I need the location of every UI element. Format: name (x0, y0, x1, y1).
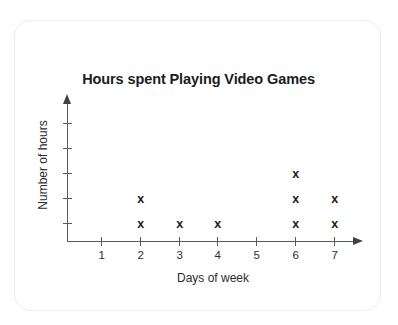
x-axis-tick-label: 2 (129, 249, 153, 261)
y-axis-tick (63, 173, 72, 174)
y-axis-tick (63, 123, 72, 124)
x-axis-arrow-icon (353, 237, 363, 245)
y-axis-tick (63, 223, 72, 224)
data-point-mark: x (171, 218, 189, 231)
x-axis-tick-label: 4 (206, 249, 230, 261)
x-axis-tick-label: 6 (284, 249, 308, 261)
data-point-mark: x (132, 193, 150, 206)
data-point-mark: x (209, 218, 227, 231)
plot-area: 1 2 3 4 5 6 7 x x x x x x x x x Number o… (15, 21, 382, 312)
x-axis-tick (295, 237, 296, 246)
data-point-mark: x (287, 168, 305, 181)
x-axis-tick (334, 237, 335, 246)
data-point-mark: x (326, 193, 344, 206)
x-axis-tick (101, 237, 102, 246)
y-axis-tick (63, 148, 72, 149)
y-axis-label: Number of hours (36, 100, 50, 230)
x-axis-label: Days of week (67, 271, 359, 285)
data-point-mark: x (326, 218, 344, 231)
x-axis-tick (256, 237, 257, 246)
data-point-mark: x (132, 218, 150, 231)
chart-card: Hours spent Playing Video Games 1 2 (14, 20, 381, 311)
y-axis-tick (63, 198, 72, 199)
x-axis-line (67, 241, 359, 242)
data-point-mark: x (287, 193, 305, 206)
y-axis-arrow-icon (63, 94, 71, 104)
x-axis-tick-label: 1 (90, 249, 114, 261)
x-axis-tick-label: 5 (245, 249, 269, 261)
x-axis-tick (179, 237, 180, 246)
data-point-mark: x (287, 218, 305, 231)
chart-screenshot: Hours spent Playing Video Games 1 2 (0, 0, 398, 325)
x-axis-tick (140, 237, 141, 246)
x-axis-tick (217, 237, 218, 246)
x-axis-tick-label: 7 (323, 249, 347, 261)
x-axis-tick-label: 3 (168, 249, 192, 261)
